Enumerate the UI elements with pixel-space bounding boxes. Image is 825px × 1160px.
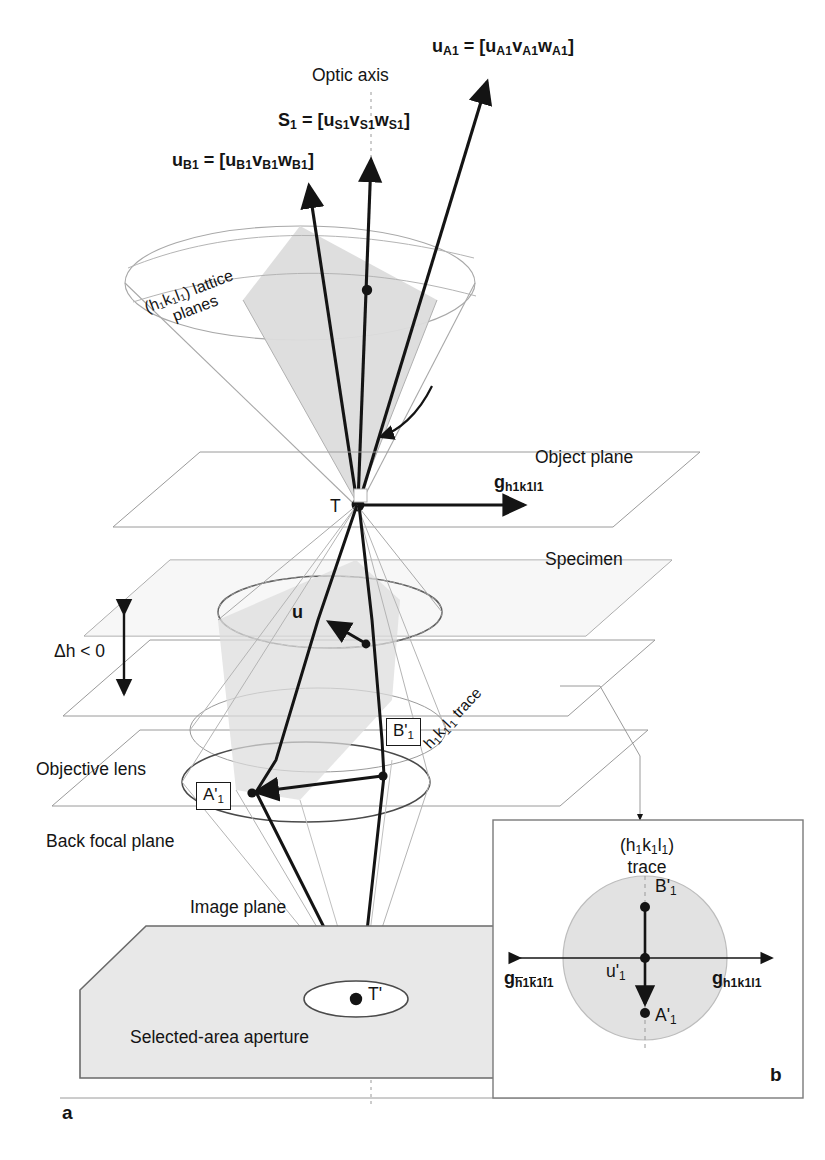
panel-label-b: b	[770, 1064, 782, 1085]
label-delta-h: Δh < 0	[54, 642, 105, 662]
inset-label-g-right: gh1k1l1	[712, 968, 762, 991]
inset-point-B-dot	[640, 902, 650, 912]
label-vector-u-specimen: u	[292, 602, 303, 622]
image-point-T-prime-dot	[350, 993, 362, 1005]
label-vector-uB1: uB1 = [uB1vB1wB1]	[172, 150, 314, 173]
inset-connector-arrow	[600, 686, 640, 820]
label-image-plane: Image plane	[190, 898, 286, 918]
label-object-plane: Object plane	[535, 448, 633, 468]
label-point-A-prime-boxed: A'1	[196, 782, 231, 810]
label-back-focal-plane: Back focal plane	[46, 832, 174, 852]
inset-point-A-dot	[640, 1008, 650, 1018]
label-origin-T: T	[330, 497, 341, 517]
inset-label-A-prime: A'1	[655, 1006, 677, 1028]
label-vector-S1: S1 = [uS1vS1wS1]	[278, 110, 410, 133]
figure-container: uA1 = [uA1vA1wA1] Optic axis S1 = [uS1vS…	[0, 0, 825, 1160]
point-A-prime-dot	[247, 788, 256, 797]
upper-cone-wedge-fill	[243, 226, 437, 503]
label-image-T-prime: T'	[368, 985, 382, 1005]
diagram-canvas	[0, 0, 825, 1160]
inset-label-u-prime: u'1	[606, 962, 626, 984]
inset-title-line1: (h1k1l1)	[620, 835, 674, 855]
label-objective-lens: Objective lens	[36, 760, 146, 780]
vector-u-origin-dot	[362, 640, 371, 649]
label-vector-uA1: uA1 = [uA1vA1wA1]	[432, 36, 574, 59]
inset-title: (h1k1l1) trace	[597, 836, 697, 877]
inset-label-g-left: gh1k1l1	[504, 968, 554, 991]
inset-title-line2: trace	[628, 857, 667, 877]
label-g-vector-main: gh1k1l1	[494, 472, 544, 495]
panel-label-a: a	[62, 1102, 73, 1123]
point-B-prime-dot	[378, 771, 387, 780]
label-optic-axis: Optic axis	[312, 66, 389, 86]
label-specimen: Specimen	[545, 550, 623, 570]
label-point-B-prime-boxed: B'1	[386, 718, 421, 746]
right-angle-marker	[354, 489, 367, 502]
label-selected-area-aperture: Selected-area aperture	[130, 1028, 309, 1048]
inset-label-B-prime: B'1	[655, 877, 677, 899]
s1-node-dot	[362, 285, 372, 295]
